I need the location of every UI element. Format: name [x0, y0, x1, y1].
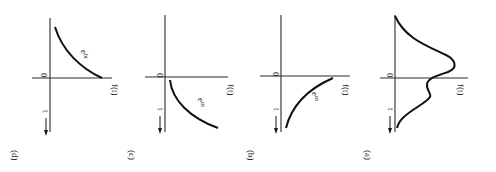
pulse-curve: [395, 16, 455, 128]
curve-label: eαt: [310, 92, 320, 101]
panel-c: 0 t f(t) eαt (c): [127, 15, 236, 160]
signal-figure: 0 t f(t) ebt (d) 0 t f(t) eαt (c) 0 t f(…: [0, 0, 496, 172]
panel-label: (d): [10, 150, 20, 161]
origin-label: 0: [385, 73, 395, 78]
origin-label: 0: [271, 72, 281, 77]
panel-d: 0 t f(t) ebt (d): [10, 18, 120, 161]
panel-label: (a): [363, 150, 373, 160]
exp-curve: [55, 27, 102, 78]
curve-label: eαt: [196, 98, 206, 107]
f-label: f(t): [456, 84, 466, 96]
panel-label: (b): [246, 150, 256, 161]
origin-label: 0: [39, 73, 49, 78]
exp-curve: [286, 78, 333, 128]
f-label: f(t): [110, 84, 120, 96]
exp-curve: [170, 80, 218, 128]
panel-label: (c): [127, 150, 137, 160]
f-label: f(t): [341, 84, 351, 96]
curve-label: ebt: [79, 50, 89, 59]
origin-label: 0: [155, 73, 165, 78]
f-label: f(t): [226, 84, 236, 96]
panel-a: 0 t f(t) (a): [363, 15, 468, 160]
panel-b: 0 t f(t) eαt (b): [246, 15, 351, 161]
